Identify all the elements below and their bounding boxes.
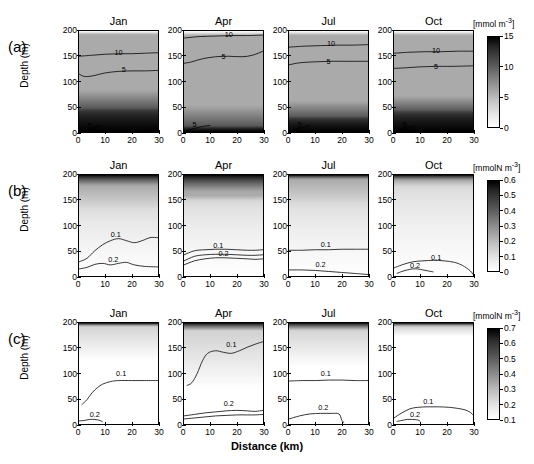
panel-a-jan: Jan 5510 0501001502000102030: [78, 30, 159, 133]
svg-text:0.2: 0.2: [224, 399, 234, 408]
y-tick-label: 200: [261, 169, 287, 179]
x-tick-label: 10: [201, 427, 219, 437]
x-tick-label: 20: [333, 279, 351, 289]
y-tick-label: 50: [261, 246, 287, 256]
y-tick-label: 150: [156, 195, 182, 205]
y-tick-label: 150: [51, 343, 77, 353]
svg-text:0.1: 0.1: [321, 240, 331, 249]
plot-area: 0.20.1: [78, 174, 159, 277]
y-tick-label: 50: [51, 246, 77, 256]
y-tick-label: 50: [366, 102, 392, 112]
svg-text:5: 5: [326, 57, 330, 66]
x-tick-label: 30: [465, 135, 483, 145]
y-tick-label: 100: [51, 221, 77, 231]
svg-text:0.1: 0.1: [226, 340, 236, 349]
colorbar-tick-label: 0.3: [504, 221, 516, 231]
colorbar-tick-label: 0: [504, 267, 509, 277]
y-axis-label-c: Depth (m): [19, 310, 30, 406]
x-tick-label: 10: [306, 279, 324, 289]
y-tick-label: 200: [51, 169, 77, 179]
panel-b-apr: Apr 0.20.1 0501001502000102030: [183, 174, 264, 277]
colorbar-tick-label: 0.2: [504, 236, 516, 246]
x-axis-label: Distance (km): [0, 440, 534, 452]
panel-b-oct: Oct 0.20.1 0501001502000102030: [393, 174, 474, 277]
y-tick-label: 50: [156, 394, 182, 404]
y-tick-label: 100: [156, 77, 182, 87]
svg-text:5: 5: [193, 120, 197, 129]
x-tick-label: 10: [96, 427, 114, 437]
y-tick-label: 200: [366, 317, 392, 327]
y-tick-label: 150: [366, 195, 392, 205]
colorbar-gradient: [487, 36, 500, 128]
x-tick-label: 10: [411, 135, 429, 145]
panel-title: Jul: [288, 307, 369, 319]
x-tick-label: 20: [438, 135, 456, 145]
colorbar-gradient: [487, 328, 500, 420]
plot-area: 5510: [288, 30, 369, 133]
y-tick-label: 200: [51, 317, 77, 327]
plot-area: 0.20.1: [288, 322, 369, 425]
plot-area: 0.20.1: [183, 322, 264, 425]
svg-text:0.1: 0.1: [111, 230, 121, 239]
y-tick-label: 100: [156, 369, 182, 379]
svg-text:0.2: 0.2: [316, 260, 326, 269]
x-tick-label: 20: [438, 279, 456, 289]
svg-text:0.2: 0.2: [410, 410, 420, 419]
colorbar-label: [mmol m-3]: [473, 17, 514, 29]
colorbar-tick-label: 0.4: [504, 206, 516, 216]
x-tick-label: 10: [306, 135, 324, 145]
y-tick-label: 100: [261, 221, 287, 231]
svg-text:5: 5: [88, 121, 92, 130]
x-tick-label: 30: [465, 427, 483, 437]
y-tick-label: 50: [51, 102, 77, 112]
y-axis-label-b: Depth (m): [19, 162, 30, 258]
y-tick-label: 150: [366, 343, 392, 353]
y-tick-label: 100: [156, 221, 182, 231]
x-tick-label: 10: [201, 135, 219, 145]
y-tick-label: 200: [261, 25, 287, 35]
colorbar-tick-label: 0.4: [504, 369, 516, 379]
colorbar-label: [mmolN m-3]: [473, 309, 520, 321]
x-tick-label: 20: [123, 279, 141, 289]
x-tick-label: 0: [69, 427, 87, 437]
panel-c-oct: Oct 0.20.1 0501001502000102030: [393, 322, 474, 425]
y-tick-label: 150: [156, 343, 182, 353]
panel-row-b: (b) Depth (m) Jan 0.20.1 050100150200010…: [0, 160, 534, 308]
colorbar-tick-label: 0.5: [504, 354, 516, 364]
panel-title: Jan: [78, 307, 159, 319]
x-tick-label: 20: [333, 135, 351, 145]
plot-area: 0.20.1: [288, 174, 369, 277]
y-tick-label: 200: [261, 317, 287, 327]
panel-title: Apr: [183, 159, 264, 171]
x-tick-label: 0: [69, 135, 87, 145]
x-tick-label: 0: [384, 427, 402, 437]
svg-text:10: 10: [225, 31, 233, 39]
y-tick-label: 100: [366, 369, 392, 379]
y-tick-label: 150: [261, 195, 287, 205]
svg-text:5: 5: [403, 120, 407, 129]
svg-text:0.1: 0.1: [213, 241, 223, 250]
x-tick-label: 0: [384, 135, 402, 145]
svg-text:0.1: 0.1: [431, 253, 441, 262]
x-tick-label: 20: [228, 279, 246, 289]
panel-a-jul: Jul 5510 0501001502000102030: [288, 30, 369, 133]
colorbar-tick-label: 0.2: [504, 400, 516, 410]
y-tick-label: 150: [51, 195, 77, 205]
colorbar-tick-label: 0.7: [504, 323, 516, 333]
y-tick-label: 100: [366, 77, 392, 87]
y-axis-label-a: Depth (m): [19, 18, 30, 114]
x-tick-label: 10: [96, 279, 114, 289]
panel-title: Oct: [393, 307, 474, 319]
panel-title: Jul: [288, 15, 369, 27]
panel-c-jan: Jan 0.20.1 0501001502000102030: [78, 322, 159, 425]
colorbar: [mmolN m-3]00.10.20.30.40.50.6: [487, 174, 534, 277]
plot-area: 0.20.1: [393, 174, 474, 277]
panel-a-apr: Apr 5510 0501001502000102030: [183, 30, 264, 133]
figure-root: (a) Depth (m) Jan 5510 05010015020001020…: [0, 0, 534, 464]
x-tick-label: 0: [69, 279, 87, 289]
x-tick-label: 20: [438, 427, 456, 437]
colorbar-tick-label: 15: [504, 31, 513, 41]
x-tick-label: 0: [174, 279, 192, 289]
panel-title: Apr: [183, 307, 264, 319]
svg-text:0.2: 0.2: [218, 249, 228, 258]
